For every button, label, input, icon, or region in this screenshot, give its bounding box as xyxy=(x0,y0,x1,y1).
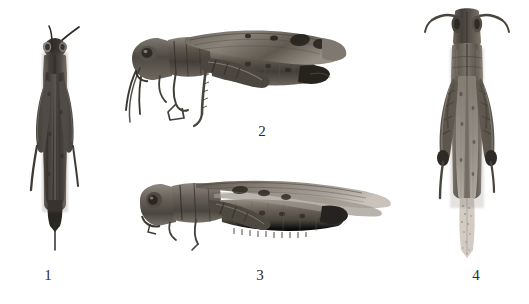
specimen-4-image xyxy=(424,2,510,264)
figure-plate: 1 2 3 4 xyxy=(0,0,529,304)
specimen-3-image xyxy=(136,176,398,260)
specimen-1-image xyxy=(22,22,84,254)
specimen-2-image xyxy=(124,14,356,136)
figure-label-2: 2 xyxy=(250,124,274,139)
figure-label-3: 3 xyxy=(248,268,272,283)
figure-label-4: 4 xyxy=(464,268,488,283)
figure-label-1: 1 xyxy=(36,268,60,283)
